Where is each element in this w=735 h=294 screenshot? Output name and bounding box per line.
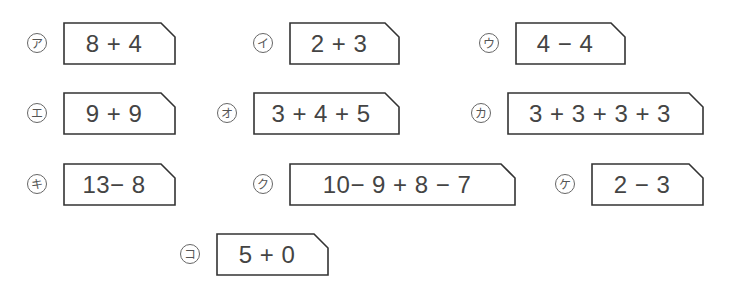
circled-label: コ	[180, 244, 200, 264]
circled-label: オ	[217, 103, 237, 123]
expression-box: 3 + 3 + 3 + 3	[507, 92, 705, 135]
expression-text: 8 + 4	[63, 22, 165, 65]
expression-box: 2 + 3	[289, 22, 401, 65]
circled-label: ケ	[555, 174, 575, 194]
expression-box: 3 + 4 + 5	[253, 92, 401, 135]
circled-label: カ	[471, 103, 491, 123]
circled-label: キ	[27, 174, 47, 194]
expression-box: 10− 9 + 8 − 7	[289, 163, 517, 206]
expression-box: 2 − 3	[591, 163, 705, 206]
expression-box: 13− 8	[63, 163, 177, 206]
expression-text: 3 + 3 + 3 + 3	[507, 92, 693, 135]
circled-label: イ	[253, 33, 273, 53]
expression-text: 3 + 4 + 5	[253, 92, 389, 135]
expression-text: 13− 8	[63, 163, 165, 206]
expression-text: 2 + 3	[289, 22, 389, 65]
expression-box: 4 − 4	[515, 22, 627, 65]
circled-label: ア	[27, 33, 47, 53]
expression-text: 4 − 4	[515, 22, 615, 65]
expression-text: 9 + 9	[63, 92, 165, 135]
expression-box: 8 + 4	[63, 22, 177, 65]
expression-box: 5 + 0	[216, 233, 330, 276]
circled-label: ウ	[479, 33, 499, 53]
expression-text: 2 − 3	[591, 163, 693, 206]
expression-text: 10− 9 + 8 − 7	[289, 163, 505, 206]
circled-label: ク	[253, 174, 273, 194]
circled-label: エ	[27, 103, 47, 123]
expression-text: 5 + 0	[216, 233, 318, 276]
expression-box: 9 + 9	[63, 92, 177, 135]
